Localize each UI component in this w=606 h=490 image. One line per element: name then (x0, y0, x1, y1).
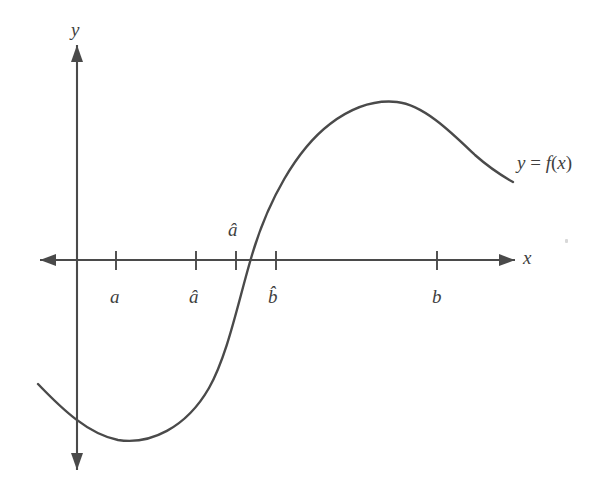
tick-label-b-hat: b̂ (268, 287, 278, 306)
x-axis-label: x (523, 248, 531, 267)
function-graph-figure: y x a â b̂ b â y = f(x) (0, 0, 606, 490)
tick-label-a: a (110, 287, 120, 306)
y-axis-label: y (71, 20, 79, 39)
y-axis-group (71, 45, 83, 470)
graph-canvas (0, 0, 606, 490)
y-axis-top-arrowhead (71, 45, 83, 62)
function-curve (38, 102, 513, 441)
tick-label-b: b (432, 287, 442, 306)
x-axis-left-arrowhead (40, 254, 56, 266)
tick-label-a-hat: â (189, 287, 199, 306)
x-axis-group (40, 254, 515, 266)
y-axis-bottom-arrowhead (71, 453, 83, 470)
curve-equation-label: y = f(x) (517, 153, 572, 172)
annotation-label-a-hat-above-axis: â (228, 220, 238, 239)
scan-artifact-speck (565, 239, 568, 243)
x-axis-right-arrowhead (499, 254, 515, 266)
